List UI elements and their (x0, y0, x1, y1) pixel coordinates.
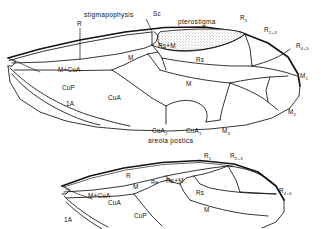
label-forewing-1a: 1A (66, 100, 75, 107)
label-hindwing-cua: CuA (108, 199, 122, 206)
figure-canvas: stigmapophysis Sc pterostigma R R1 R2+3 … (0, 0, 321, 229)
label-hindwing-rs-plus-m: Rs+M (166, 177, 184, 184)
label-hindwing-rs: Rs (196, 189, 204, 196)
label-hindwing-cup: CuP (134, 212, 147, 219)
forewing-membrane (8, 25, 301, 130)
label-forewing-rs-plus-m: Rs+M (158, 42, 176, 49)
wing-venation-figure: stigmapophysis Sc pterostigma R R1 R2+3 … (0, 0, 321, 229)
label-hindwing-rs-cell: Rs (151, 179, 158, 185)
label-hindwing-r: R (126, 172, 131, 179)
label-hindwing-m-mid: M (204, 206, 210, 213)
label-forewing-m-left: M (128, 54, 134, 61)
label-hindwing-m-left: M (133, 183, 139, 190)
label-hindwing-m-plus-cua: M+CuA (88, 192, 111, 199)
label-areola-postica: areola postica (148, 137, 193, 145)
label-stigmapophysis: stigmapophysis (84, 11, 134, 19)
label-forewing-m-plus-cua: M+CuA (58, 66, 81, 73)
label-hindwing-1a: 1A (64, 216, 73, 223)
label-forewing-cup: CuP (62, 84, 75, 91)
label-pterostigma: pterostigma (178, 18, 216, 26)
label-forewing-rs: Rs (196, 56, 204, 63)
label-forewing-m-mid: M (186, 80, 192, 87)
label-sc: Sc (153, 10, 161, 17)
label-forewing-cua: CuA (108, 94, 122, 101)
label-forewing-r: R (77, 20, 82, 27)
